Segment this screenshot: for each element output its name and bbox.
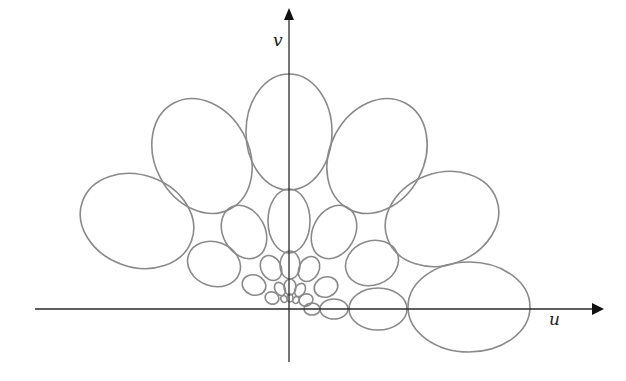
v-axis-label: v [273, 30, 283, 50]
ellipse-outer-5 [408, 262, 530, 352]
v-axis-arrowhead-icon [284, 8, 294, 20]
ellipse-outer-3 [67, 158, 207, 284]
ellipse-tiny-21 [263, 290, 280, 306]
ellipse-mid-10 [339, 233, 405, 293]
ellipse-tiny-20 [292, 281, 307, 298]
u-axis-arrowhead-icon [592, 303, 604, 315]
u-axis-label: u [549, 309, 560, 329]
conformal-ellipse-diagram: u v [0, 0, 626, 381]
ellipse-small-12 [280, 251, 300, 279]
ellipse-family [67, 74, 530, 352]
ellipse-outer-4 [372, 156, 512, 282]
